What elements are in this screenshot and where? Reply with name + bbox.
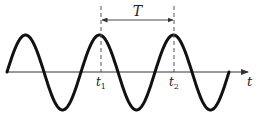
time-label-t1: t1 <box>96 75 106 91</box>
period-label: T <box>133 3 144 19</box>
waveform-diagram: T t1 t2 t <box>0 0 259 120</box>
time-axis-label: t <box>247 74 253 89</box>
waveform-figure: T t1 t2 t <box>0 0 259 120</box>
time-label-t2: t2 <box>169 75 179 91</box>
